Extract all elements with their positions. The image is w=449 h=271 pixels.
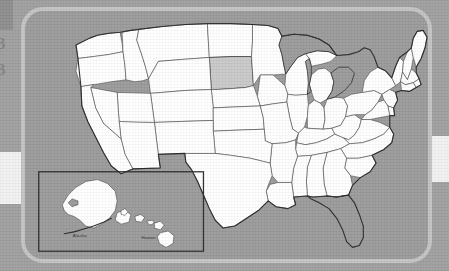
hawaii-maui[interactable] [154,221,164,230]
screenshot-root: 3 3 [0,0,449,271]
ak-hi-inset: Alaska Hawaii [39,172,204,251]
florida-peninsula-outline [307,195,363,247]
state-texas[interactable] [185,153,272,228]
states-layer [76,24,427,228]
state-alaska[interactable] [62,180,117,228]
map-card: Alaska Hawaii [21,7,432,263]
edge-glyph-artifact-top: 3 [0,34,6,54]
inset-label-hawaii: Hawaii [142,235,156,240]
us-map-svg[interactable]: Alaska Hawaii [25,11,428,259]
state-south-dakota[interactable] [209,57,253,90]
state-louisiana[interactable] [266,182,295,208]
state-iowa[interactable] [257,75,287,106]
hawaii-molokai[interactable] [147,220,155,225]
state-indiana[interactable] [307,100,325,129]
state-north-dakota[interactable] [207,24,252,58]
hawaii-oahu[interactable] [135,214,145,222]
state-wyoming[interactable] [149,58,212,94]
state-utah[interactable] [117,92,154,122]
state-kansas[interactable] [213,106,264,131]
hawaii-big-island[interactable] [157,231,174,247]
map-stage: Alaska Hawaii [25,11,428,259]
state-new-mexico[interactable] [154,120,215,154]
edge-glyph-artifact-bottom: 3 [0,60,6,80]
state-colorado[interactable] [151,89,214,122]
page-edge-corner-artifact [0,0,13,30]
inset-label-alaska: Alaska [73,233,87,238]
